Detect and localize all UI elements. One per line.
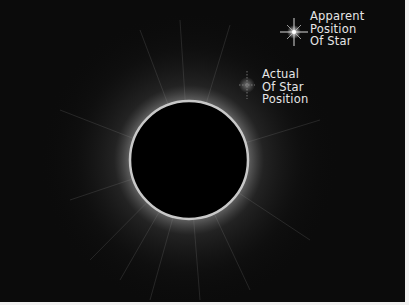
eclipse-panel: Apparent Position Of Star Actual Of Star… xyxy=(0,0,405,302)
apparent-position-label: Apparent Position Of Star xyxy=(310,10,364,48)
moon-disc xyxy=(130,101,248,219)
label-line: Apparent xyxy=(310,10,364,23)
label-line: Actual xyxy=(262,68,308,81)
figure-frame: Apparent Position Of Star Actual Of Star… xyxy=(0,0,409,305)
label-line: Of Star xyxy=(310,35,364,48)
label-line: Position xyxy=(262,93,308,106)
actual-position-label: Actual Of Star Position xyxy=(262,68,308,106)
bright-star-icon xyxy=(280,18,308,46)
